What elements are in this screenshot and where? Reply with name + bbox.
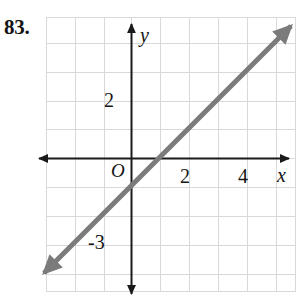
x-tick-label-2: 2 (180, 166, 190, 186)
y-tick-label-negative-3: -3 (88, 232, 105, 252)
coordinate-plane-graphic (0, 0, 304, 299)
origin-label: O (111, 161, 125, 180)
plotted-line (44, 26, 291, 273)
figure-container: 83. (0, 0, 304, 299)
x-axis-label: x (277, 165, 286, 185)
x-tick-label-4: 4 (238, 166, 248, 186)
y-axis-label: y (140, 25, 149, 45)
y-tick-label-2: 2 (104, 90, 114, 110)
